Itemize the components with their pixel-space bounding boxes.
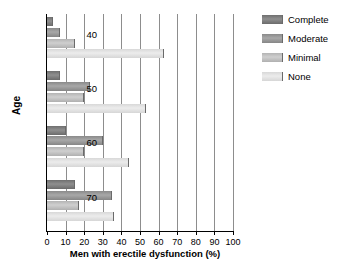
legend-item-complete[interactable]: Complete: [262, 10, 348, 29]
y-axis-title: Age: [11, 86, 22, 126]
bar-complete-age-50: [47, 71, 60, 80]
gridline: [196, 14, 197, 231]
legend-swatch-icon: [262, 15, 283, 24]
x-tick: [159, 231, 160, 235]
legend-label: None: [288, 71, 311, 82]
chart-legend: CompleteModerateMinimalNone: [262, 10, 348, 86]
x-tick: [66, 231, 67, 235]
x-tick-label: 10: [56, 237, 76, 248]
bar-none-age-70: [47, 212, 114, 221]
legend-item-none[interactable]: None: [262, 67, 348, 86]
gridline: [140, 14, 141, 231]
x-tick-label: 90: [204, 237, 224, 248]
x-tick: [233, 231, 234, 235]
x-tick-label: 30: [93, 237, 113, 248]
gridline: [121, 14, 122, 231]
x-tick-label: 50: [130, 237, 150, 248]
y-tick-label: 70: [73, 192, 97, 203]
legend-label: Complete: [288, 14, 329, 25]
x-tick: [214, 231, 215, 235]
bar-complete-age-60: [47, 126, 66, 135]
legend-swatch-icon: [262, 53, 283, 62]
x-tick: [196, 231, 197, 235]
x-tick: [103, 231, 104, 235]
y-tick-label: 50: [73, 83, 97, 94]
y-tick-label: 40: [73, 29, 97, 40]
bar-moderate-age-40: [47, 28, 60, 37]
bar-none-age-50: [47, 104, 146, 113]
gridline: [233, 14, 234, 231]
bar-minimal-age-50: [47, 93, 84, 102]
x-tick-label: 0: [37, 237, 57, 248]
y-tick-label: 60: [73, 137, 97, 148]
bar-none-age-40: [47, 49, 164, 58]
legend-item-minimal[interactable]: Minimal: [262, 48, 348, 67]
bar-minimal-age-40: [47, 39, 75, 48]
x-tick-label: 70: [167, 237, 187, 248]
x-tick-label: 20: [74, 237, 94, 248]
x-tick: [177, 231, 178, 235]
legend-swatch-icon: [262, 34, 283, 43]
legend-swatch-icon: [262, 72, 283, 81]
bar-none-age-60: [47, 158, 129, 167]
legend-item-moderate[interactable]: Moderate: [262, 29, 348, 48]
legend-label: Minimal: [288, 52, 321, 63]
x-tick-label: 80: [186, 237, 206, 248]
chart-figure: Age 0102030405060708090100 40506070 Men …: [0, 0, 350, 270]
gridline: [214, 14, 215, 231]
x-tick: [84, 231, 85, 235]
x-tick-label: 60: [149, 237, 169, 248]
x-tick: [47, 231, 48, 235]
bar-complete-age-70: [47, 180, 75, 189]
x-tick: [121, 231, 122, 235]
x-tick-label: 100: [223, 237, 243, 248]
gridline: [159, 14, 160, 231]
bar-minimal-age-60: [47, 147, 84, 156]
legend-label: Moderate: [288, 33, 328, 44]
x-tick-label: 40: [111, 237, 131, 248]
bar-complete-age-40: [47, 17, 53, 26]
x-axis-title: Men with erectile dysfunction (%): [40, 248, 250, 259]
bar-minimal-age-70: [47, 201, 79, 210]
gridline: [177, 14, 178, 231]
x-tick: [140, 231, 141, 235]
